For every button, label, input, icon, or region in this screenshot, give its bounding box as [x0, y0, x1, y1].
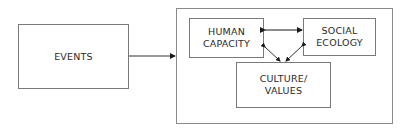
events-label: EVENTS [54, 51, 93, 63]
human-capacity-box: HUMAN CAPACITY [189, 18, 264, 58]
culture-values-line2: VALUES [265, 85, 302, 97]
human-capacity-line2: CAPACITY [203, 38, 250, 50]
human-capacity-line1: HUMAN [208, 26, 245, 38]
events-box: EVENTS [18, 24, 129, 89]
social-ecology-box: SOCIAL ECOLOGY [303, 18, 376, 56]
social-ecology-line2: ECOLOGY [316, 37, 363, 49]
culture-values-line1: CULTURE/ [260, 73, 308, 85]
culture-values-box: CULTURE/ VALUES [236, 62, 331, 108]
social-ecology-line1: SOCIAL [322, 25, 358, 37]
